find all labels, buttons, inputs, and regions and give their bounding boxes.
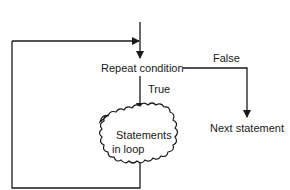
false-label: False <box>213 52 240 64</box>
loop-body-label-line2: in loop <box>112 143 144 155</box>
flowchart-canvas <box>0 0 290 190</box>
true-label: True <box>148 83 170 95</box>
loop-body-label-line1: Statements <box>116 129 172 141</box>
next-statement-label: Next statement <box>210 122 284 134</box>
condition-label: Repeat condition <box>101 62 184 74</box>
false-arrow <box>183 68 247 117</box>
